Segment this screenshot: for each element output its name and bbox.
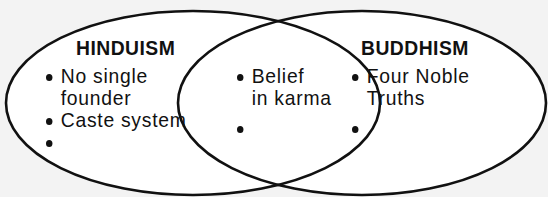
hinduism-item-1: No single founder bbox=[46, 65, 187, 109]
hinduism-list: No single founder Caste system bbox=[46, 65, 199, 153]
hinduism-item-3 bbox=[46, 131, 187, 153]
buddhism-title: BUDDHISM bbox=[361, 36, 469, 60]
buddhism-item-2 bbox=[352, 117, 470, 139]
overlap-list: Belief in karma bbox=[237, 65, 340, 139]
buddhism-item-1: Four Noble Truths bbox=[352, 65, 470, 109]
hinduism-item-2: Caste system bbox=[46, 109, 187, 131]
overlap-item-2 bbox=[237, 117, 332, 139]
buddhism-list: Four Noble Truths bbox=[352, 65, 480, 139]
overlap-item-1: Belief in karma bbox=[237, 65, 332, 109]
hinduism-title: HINDUISM bbox=[76, 36, 175, 60]
